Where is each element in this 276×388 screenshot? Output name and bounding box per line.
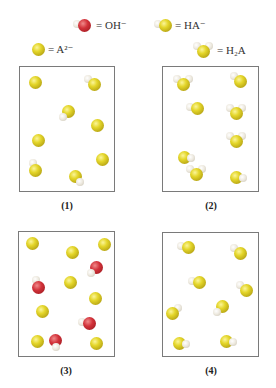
sulfur-atom-icon <box>166 307 179 320</box>
sulfur-atom-icon <box>190 168 203 181</box>
box-label-1: (1) <box>52 200 82 211</box>
oxygen-atom-icon <box>78 19 91 32</box>
legend-label-oh: = OH⁻ <box>96 19 127 31</box>
box-label-3: (3) <box>51 365 81 376</box>
oxygen-atom-icon <box>32 281 45 294</box>
legend-label-a2: = A²⁻ <box>48 43 73 55</box>
sulfur-atom-icon <box>230 107 243 120</box>
sulfur-atom-icon <box>66 246 79 259</box>
hydrogen-atom-icon <box>76 178 84 186</box>
sulfur-atom-icon <box>36 305 49 318</box>
sulfur-atom-icon <box>91 119 104 132</box>
sulfur-atom-icon <box>32 43 45 56</box>
hydrogen-atom-icon <box>239 174 247 182</box>
sulfur-atom-icon <box>197 45 210 58</box>
sulfur-atom-icon <box>234 75 247 88</box>
sulfur-atom-icon <box>234 247 247 260</box>
hydrogen-atom-icon <box>59 113 67 121</box>
sulfur-atom-icon <box>88 78 101 91</box>
hydrogen-atom-icon <box>187 154 195 162</box>
sulfur-atom-icon <box>29 164 42 177</box>
sulfur-atom-icon <box>159 19 172 32</box>
sulfur-atom-icon <box>98 238 111 251</box>
sulfur-atom-icon <box>32 134 45 147</box>
hydrogen-atom-icon <box>229 338 237 346</box>
oxygen-atom-icon <box>83 317 96 330</box>
sulfur-atom-icon <box>177 78 190 91</box>
sulfur-atom-icon <box>193 276 206 289</box>
sulfur-atom-icon <box>230 135 243 148</box>
sulfur-atom-icon <box>182 241 195 254</box>
hydrogen-atom-icon <box>213 308 221 316</box>
sulfur-atom-icon <box>26 237 39 250</box>
sulfur-atom-icon <box>89 292 102 305</box>
hydrogen-atom-icon <box>182 340 190 348</box>
box-label-4: (4) <box>196 365 226 376</box>
sulfur-atom-icon <box>29 76 42 89</box>
sulfur-atom-icon <box>31 335 44 348</box>
legend-label-h2a: = H₂A <box>217 44 246 56</box>
hydrogen-atom-icon <box>87 269 95 277</box>
hydrogen-atom-icon <box>52 343 60 351</box>
legend-label-ha: = HA⁻ <box>175 19 206 31</box>
sulfur-atom-icon <box>90 337 103 350</box>
sulfur-atom-icon <box>64 276 77 289</box>
sulfur-atom-icon <box>240 284 253 297</box>
box-label-2: (2) <box>196 200 226 211</box>
sulfur-atom-icon <box>96 153 109 166</box>
sulfur-atom-icon <box>191 102 204 115</box>
